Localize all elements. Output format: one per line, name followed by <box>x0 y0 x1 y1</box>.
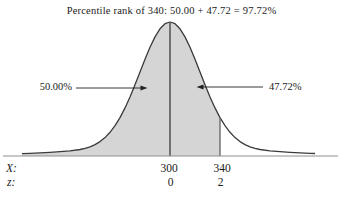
left-area-label: 50.00% <box>26 81 72 92</box>
z-tick-0: 0 <box>155 176 186 188</box>
x-tick-340: 340 <box>206 162 238 174</box>
right-area-label: 47.72% <box>269 81 301 92</box>
x-axis-label: X: <box>6 162 17 174</box>
x-tick-300: 300 <box>153 162 185 174</box>
z-tick-2: 2 <box>205 176 236 188</box>
normal-curve-figure: Percentile rank of 340: 50.00 + 47.72 = … <box>0 0 343 204</box>
z-axis-label: z: <box>7 176 15 188</box>
